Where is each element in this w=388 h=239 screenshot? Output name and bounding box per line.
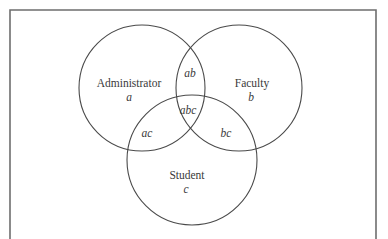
region-ab: ab — [184, 67, 196, 79]
venn-diagram: Administrator a Faculty b Student c ab a… — [0, 0, 388, 239]
region-bc: bc — [221, 127, 232, 139]
label-administrator: Administrator — [97, 77, 162, 89]
symbol-c: c — [183, 183, 188, 195]
region-abc: abc — [180, 104, 197, 116]
symbol-a: a — [126, 91, 132, 103]
label-student: Student — [169, 169, 205, 181]
region-ac: ac — [142, 127, 153, 139]
symbol-b: b — [248, 91, 254, 103]
label-faculty: Faculty — [235, 77, 270, 90]
